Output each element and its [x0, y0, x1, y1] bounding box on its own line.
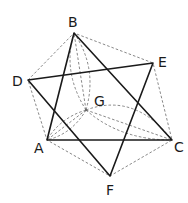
dashed-arc-g-c-upper [86, 105, 172, 140]
point-g-marker [85, 109, 87, 111]
label-e: E [158, 54, 167, 70]
label-d: D [12, 73, 23, 89]
label-b: B [68, 14, 78, 30]
label-c: C [174, 139, 184, 155]
label-f: F [106, 182, 114, 198]
label-a: A [34, 140, 44, 156]
geometry-figure: A B C D E F G [0, 0, 188, 203]
triangle-def [28, 63, 153, 176]
label-g: G [94, 93, 105, 109]
